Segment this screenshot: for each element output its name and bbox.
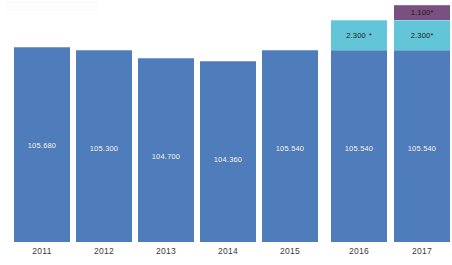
bar-2011[interactable]: 105.680 — [14, 47, 70, 242]
bar-value-label: 105.540 — [276, 145, 305, 153]
bar-value-label: 1.100* — [411, 9, 434, 17]
bar-value-label: 104.360 — [214, 156, 243, 164]
bar-value-label: 105.540 — [345, 145, 374, 153]
x-axis-tick-2011: 2011 — [14, 246, 70, 256]
x-axis-tick-2013: 2013 — [138, 246, 194, 256]
bar-segment-base-2013[interactable]: 104.700 — [138, 58, 194, 242]
bar-segment-base-2016[interactable]: 105.540 — [331, 50, 387, 242]
bar-segment-mid-2016[interactable]: 2.300* — [331, 20, 387, 50]
bar-segment-base-2012[interactable]: 105.300 — [76, 50, 132, 242]
bar-chart: 105.680105.300104.700104.360105.5402.300… — [0, 0, 452, 265]
bar-value-label: 105.300 — [90, 145, 119, 153]
bar-segment-base-2011[interactable]: 105.680 — [14, 47, 70, 242]
bar-segment-base-2014[interactable]: 104.360 — [200, 61, 256, 242]
bar-2015[interactable]: 105.540 — [262, 50, 318, 242]
bar-value-label: 2.300* — [346, 32, 372, 40]
x-axis-tick-2017: 2017 — [394, 246, 450, 256]
footnote-asterisk: * — [430, 9, 433, 16]
bar-segment-top-2017[interactable]: 1.100* — [394, 5, 450, 20]
footnote-asterisk: * — [369, 32, 372, 39]
bar-2016[interactable]: 2.300*105.540 — [331, 20, 387, 242]
bar-value-label: 104.700 — [152, 153, 181, 161]
bar-value-label: 105.680 — [28, 142, 57, 150]
bar-segment-mid-2017[interactable]: 2.300* — [394, 20, 450, 50]
x-axis-tick-2015: 2015 — [262, 246, 318, 256]
bar-segment-base-2017[interactable]: 105.540 — [394, 50, 450, 242]
bar-2014[interactable]: 104.360 — [200, 61, 256, 242]
x-axis-tick-2014: 2014 — [200, 246, 256, 256]
chart-plot-area: 105.680105.300104.700104.360105.5402.300… — [0, 0, 452, 242]
bar-value-label: 2.300* — [411, 32, 434, 40]
bar-2013[interactable]: 104.700 — [138, 58, 194, 242]
bar-value-label: 105.540 — [408, 145, 437, 153]
bar-segment-base-2015[interactable]: 105.540 — [262, 50, 318, 242]
bar-2012[interactable]: 105.300 — [76, 50, 132, 242]
bar-2017[interactable]: 1.100*2.300*105.540 — [394, 5, 450, 242]
footnote-asterisk: * — [430, 32, 433, 39]
chart-x-axis: 2011201220132014201520162017 — [0, 243, 452, 265]
x-axis-tick-2012: 2012 — [76, 246, 132, 256]
x-axis-tick-2016: 2016 — [331, 246, 387, 256]
